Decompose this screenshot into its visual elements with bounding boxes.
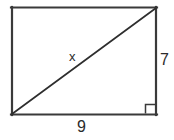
bottom-side-length-label: 9 — [77, 119, 86, 135]
hypotenuse-label: x — [69, 50, 76, 63]
right-side-length-label: 7 — [160, 52, 169, 68]
diagonal-line — [12, 8, 156, 114]
right-angle-marker-icon — [146, 105, 156, 114]
geometry-figure: x 7 9 — [0, 0, 174, 140]
figure-canvas — [0, 0, 174, 140]
